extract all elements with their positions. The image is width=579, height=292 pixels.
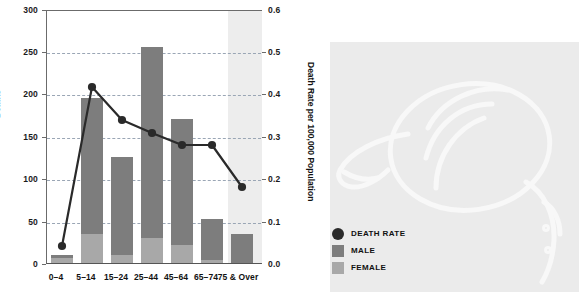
y-tick-left-0: 0 [4, 259, 38, 269]
y-tick-right-0.6: 0.6 [268, 5, 302, 15]
y-tickmark-right-0.1 [262, 222, 266, 223]
y-tick-right-0.2: 0.2 [268, 174, 302, 184]
datapoint-45-64 [178, 141, 186, 149]
y-tick-right-0.1: 0.1 [268, 217, 302, 227]
datapoint-5-14 [88, 83, 96, 91]
legend-label-death-rate: DEATH RATE [351, 229, 405, 238]
legend-item-male[interactable]: MALE [332, 243, 405, 258]
y-axis-right-title: Death Rate per 100,000 Population [306, 62, 316, 201]
legend-label-male: MALE [351, 246, 375, 255]
y-tick-right-0.0: 0.0 [268, 259, 302, 269]
datapoint-75-and-over [238, 183, 246, 191]
legend-item-death-rate[interactable]: DEATH RATE [332, 226, 405, 241]
chart-container: Deaths Death Rate per 100,000 Population… [0, 0, 330, 292]
legend-label-female: FEMALE [351, 263, 386, 272]
circle-marker-icon [332, 228, 344, 240]
datapoint-65-74 [208, 141, 216, 149]
y-tick-right-0.3: 0.3 [268, 132, 302, 142]
y-tickmark-right-0.4 [262, 94, 266, 95]
x-label-75-and-over: 75 & Over [212, 272, 264, 282]
chart-page: Deaths Death Rate per 100,000 Population… [0, 0, 579, 292]
y-tickmark-right-0.5 [262, 52, 266, 53]
y-tick-left-150: 150 [4, 132, 38, 142]
y-tickmark-left-0 [42, 264, 46, 265]
y-tickmark-right-0.2 [262, 179, 266, 180]
y-tick-left-50: 50 [4, 217, 38, 227]
y-axis-left-title: Deaths [0, 90, 2, 118]
y-tick-right-0.5: 0.5 [268, 47, 302, 57]
y-tick-right-0.4: 0.4 [268, 89, 302, 99]
square-swatch-icon-female [332, 262, 344, 274]
square-swatch-icon-male [332, 245, 344, 257]
y-tick-left-300: 300 [4, 5, 38, 15]
datapoint-0-4 [58, 242, 66, 250]
chart-legend: DEATH RATE MALE FEMALE [332, 226, 405, 277]
datapoint-15-24 [118, 116, 126, 124]
death-rate-line-series [47, 11, 261, 263]
y-tick-left-250: 250 [4, 47, 38, 57]
plot-area [46, 10, 262, 264]
y-tickmark-right-0.3 [262, 137, 266, 138]
datapoint-25-44 [148, 129, 156, 137]
y-tick-left-100: 100 [4, 174, 38, 184]
y-tick-left-200: 200 [4, 89, 38, 99]
legend-item-female[interactable]: FEMALE [332, 260, 405, 275]
